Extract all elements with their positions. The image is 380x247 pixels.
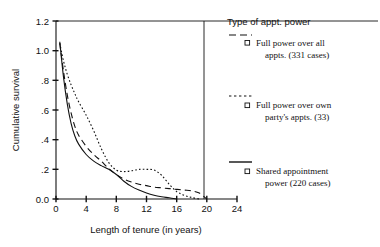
legend-entry-3-line-1: Shared appointment xyxy=(256,166,329,176)
legend-entry-2-line-1: Full power over own xyxy=(256,100,332,110)
legend-entry-2-line-2: party's appts. (33) xyxy=(265,112,329,122)
y-tick-label-0.4: .4 xyxy=(41,134,49,145)
y-tick-label-0.6: .6 xyxy=(41,105,49,116)
y-tick-label-0.8: .8 xyxy=(41,75,49,86)
survival-chart: 1.2 1.0 .8 .6 .4 .2 0.0 0 4 8 12 16 20 2… xyxy=(0,0,380,247)
x-tick-label-8: 8 xyxy=(114,203,119,214)
y-axis-title: Cumulative survival xyxy=(10,69,21,151)
legend-marker-square-icon xyxy=(245,169,250,174)
legend-entry-1-line-2: appts. (331 cases) xyxy=(265,50,329,60)
y-tick-label-0.2: .2 xyxy=(41,164,49,175)
legend-entry-shared-appointment-power[interactable]: Shared appointment power (220 cases) xyxy=(229,162,330,188)
legend-entry-1-line-1: Full power over all xyxy=(256,38,325,48)
x-tick-label-12: 12 xyxy=(141,203,152,214)
legend-title: Type of appt. power xyxy=(227,16,310,27)
x-axis-title: Length of tenure (in years) xyxy=(90,224,201,235)
legend-entry-3-line-2: power (220 cases) xyxy=(265,178,330,188)
x-tick-label-20: 20 xyxy=(202,203,213,214)
legend-marker-square-icon xyxy=(245,41,250,46)
legend-entry-full-power-all-appts[interactable]: Full power over all appts. (331 cases) xyxy=(229,35,329,60)
x-tick-label-16: 16 xyxy=(171,203,182,214)
series-line-full-power-own-party xyxy=(60,43,200,199)
legend-marker-square-icon xyxy=(245,103,250,108)
x-tick-label-4: 4 xyxy=(84,203,89,214)
y-tick-label-0.0: 0.0 xyxy=(36,194,49,205)
y-tick-label-1.2: 1.2 xyxy=(36,16,49,27)
legend-entry-full-power-own-party[interactable]: Full power over own party's appts. (33) xyxy=(229,96,332,122)
y-tick-label-1.0: 1.0 xyxy=(36,45,49,56)
x-tick-label-0: 0 xyxy=(53,203,58,214)
x-tick-label-24: 24 xyxy=(232,203,243,214)
series-line-shared-appointment-power xyxy=(60,42,177,199)
series-line-full-power-all-appts xyxy=(60,43,207,199)
plot-canvas: 1.2 1.0 .8 .6 .4 .2 0.0 0 4 8 12 16 20 2… xyxy=(0,0,380,247)
